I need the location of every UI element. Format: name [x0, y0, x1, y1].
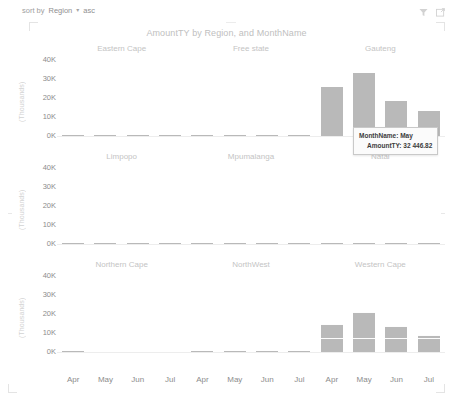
axis-line-western-cape	[316, 352, 445, 353]
bars-mpumalanga	[186, 167, 315, 244]
x-label-jul-3: Jul	[413, 372, 445, 388]
x-label-jun-1: Jun	[122, 372, 154, 388]
axis-line-natal	[316, 244, 445, 245]
x-label-apr-2: Apr	[186, 372, 218, 388]
y-tick-30k-2: 30K	[43, 182, 56, 191]
y-tick-20k-1: 20K	[43, 93, 56, 102]
facet-title-northern-cape: Northern Cape	[57, 258, 186, 271]
bars-northwest	[186, 275, 315, 352]
focus-mode-icon[interactable]	[436, 8, 445, 17]
tooltip-amount-label: AmountTY:	[367, 142, 402, 149]
axis-line-limpopo	[57, 244, 186, 245]
y-axis-ticks-3: 40K 30K 20K 10K 0K	[28, 271, 56, 353]
facet-title-gauteng: Gauteng	[316, 42, 445, 55]
y-tick-20k-2: 20K	[43, 201, 56, 210]
page-title: AmountTY by Region, and MonthName	[0, 28, 453, 38]
y-axis-ticks-1: 40K 30K 20K 10K 0K	[28, 55, 56, 137]
y-tick-40k-3: 40K	[43, 271, 56, 280]
x-axis-group-3: Apr May Jun Jul	[316, 372, 445, 388]
tooltip-amount-value: 32 446.82	[403, 142, 432, 149]
bars-free-state	[186, 59, 315, 136]
bar-western-cape-may[interactable]	[353, 312, 375, 352]
sort-by-control[interactable]: sort by Region ▾ asc	[22, 4, 95, 16]
y-tick-0k-1: 0K	[47, 131, 56, 140]
sort-by-label: sort by	[22, 6, 45, 15]
bar-gauteng-apr[interactable]	[321, 87, 343, 136]
x-axis-group-1: Apr May Jun Jul	[57, 372, 186, 388]
frame-handle-top[interactable]	[226, 22, 236, 23]
filter-icon[interactable]	[419, 8, 428, 17]
plot-row-2: (Thousands) 40K 30K 20K 10K 0K	[0, 163, 445, 245]
x-label-may-3: May	[348, 372, 380, 388]
panel-mpumalanga[interactable]	[186, 163, 315, 245]
axis-line-northern-cape	[57, 352, 186, 353]
x-label-may-1: May	[89, 372, 121, 388]
y-tick-40k-2: 40K	[43, 163, 56, 172]
panel-northwest[interactable]	[186, 271, 315, 353]
axis-line-eastern-cape	[57, 136, 186, 137]
x-label-apr-1: Apr	[57, 372, 89, 388]
y-tick-10k-1: 10K	[43, 112, 56, 121]
chart-visual-container: sort by Region ▾ asc AmountTY by Region,…	[0, 0, 453, 403]
x-axis-group-2: Apr May Jun Jul	[186, 372, 315, 388]
panel-limpopo[interactable]	[57, 163, 186, 245]
y-axis-ticks-2: 40K 30K 20K 10K 0K	[28, 163, 56, 245]
facet-title-western-cape: Western Cape	[316, 258, 445, 271]
tooltip-row-month: MonthName: May	[359, 131, 432, 141]
chart-tooltip: MonthName: May AmountTY: 32 446.82	[353, 127, 438, 155]
facet-title-row-1: Eastern Cape Free state Gauteng	[57, 42, 445, 55]
facet-title-row-3: Northern Cape NorthWest Western Cape	[57, 258, 445, 271]
y-tick-10k-3: 10K	[43, 328, 56, 337]
x-label-jun-3: Jun	[380, 372, 412, 388]
frame-corner-bottom-left	[8, 384, 17, 393]
panel-eastern-cape[interactable]	[57, 55, 186, 137]
panel-natal[interactable]	[316, 163, 445, 245]
y-tick-30k-1: 30K	[43, 74, 56, 83]
facet-row-3: Northern Cape NorthWest Western Cape (Th…	[0, 258, 453, 370]
x-label-apr-3: Apr	[316, 372, 348, 388]
x-label-jun-2: Jun	[251, 372, 283, 388]
bars-gauteng	[316, 59, 445, 136]
chevron-down-icon[interactable]: ▾	[76, 7, 79, 13]
bar-western-cape-jul[interactable]	[418, 335, 440, 352]
y-tick-10k-2: 10K	[43, 220, 56, 229]
facet-title-mpumalanga: Mpumalanga	[186, 150, 315, 163]
y-tick-30k-3: 30K	[43, 290, 56, 299]
panels-row-2	[57, 163, 445, 245]
panel-northern-cape[interactable]	[57, 271, 186, 353]
sort-direction[interactable]: asc	[83, 6, 95, 15]
bar-western-cape-apr[interactable]	[321, 324, 343, 352]
axis-line-mpumalanga	[186, 244, 315, 245]
panel-western-cape[interactable]	[316, 271, 445, 353]
tooltip-month-value: May	[400, 132, 413, 139]
facet-title-eastern-cape: Eastern Cape	[57, 42, 186, 55]
panels-row-1	[57, 55, 445, 137]
panel-free-state[interactable]	[186, 55, 315, 137]
bars-northern-cape	[57, 275, 186, 352]
facet-title-free-state: Free state	[186, 42, 315, 55]
y-tick-0k-3: 0K	[47, 347, 56, 356]
visual-header-icons	[419, 8, 445, 17]
y-tick-20k-3: 20K	[43, 309, 56, 318]
x-label-jul-2: Jul	[283, 372, 315, 388]
panels-row-3	[57, 271, 445, 353]
y-tick-0k-2: 0K	[47, 239, 56, 248]
x-axis-labels: Apr May Jun Jul Apr May Jun Jul Apr May …	[57, 372, 445, 388]
tooltip-row-amount: AmountTY: 32 446.82	[359, 141, 432, 151]
small-multiples-grid: Eastern Cape Free state Gauteng (Thousan…	[0, 42, 453, 372]
bars-natal	[316, 167, 445, 244]
facet-title-limpopo: Limpopo	[57, 150, 186, 163]
plot-row-1: (Thousands) 40K 30K 20K 10K 0K	[0, 55, 445, 137]
panel-gauteng[interactable]	[316, 55, 445, 137]
bar-western-cape-jun[interactable]	[385, 326, 407, 352]
bars-eastern-cape	[57, 59, 186, 136]
plot-row-3: (Thousands) 40K 30K 20K 10K 0K	[0, 271, 445, 353]
bars-limpopo	[57, 167, 186, 244]
x-label-jul-1: Jul	[154, 372, 186, 388]
axis-line-northwest	[186, 352, 315, 353]
axis-line-free-state	[186, 136, 315, 137]
facet-row-2: Limpopo Mpumalanga Natal (Thousands) 40K…	[0, 150, 453, 258]
facet-title-northwest: NorthWest	[186, 258, 315, 271]
tooltip-month-label: MonthName:	[359, 132, 398, 139]
sort-by-field[interactable]: Region	[49, 6, 73, 15]
